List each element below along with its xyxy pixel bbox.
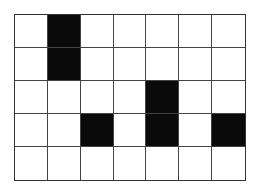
grid-cell-empty — [212, 15, 245, 48]
grid-cell-empty — [179, 15, 212, 48]
grid-cell-filled — [146, 114, 179, 147]
grid-cell-empty — [179, 147, 212, 180]
grid-cell-empty — [146, 15, 179, 48]
grid-cell-filled — [146, 81, 179, 114]
grid-cell-empty — [114, 15, 147, 48]
grid-cell-empty — [15, 15, 48, 48]
grid-cell-filled — [212, 114, 245, 147]
grid-cell-empty — [48, 114, 81, 147]
grid-cell-empty — [114, 81, 147, 114]
grid-cell-empty — [114, 147, 147, 180]
grid-cell-empty — [212, 48, 245, 81]
grid-cell-empty — [15, 147, 48, 180]
grid-cell-empty — [179, 114, 212, 147]
grid-cell-filled — [81, 114, 114, 147]
grid-cell-empty — [15, 114, 48, 147]
grid-cell-empty — [81, 147, 114, 180]
grid-cell-filled — [48, 48, 81, 81]
grid-cell-empty — [212, 147, 245, 180]
grid-cell-empty — [179, 81, 212, 114]
grid-cell-filled — [48, 15, 81, 48]
grid-cell-empty — [81, 15, 114, 48]
grid-cell-empty — [48, 81, 81, 114]
grid-cell-empty — [212, 81, 245, 114]
grid-cell-empty — [48, 147, 81, 180]
grid-cell-empty — [114, 48, 147, 81]
grid-cell-empty — [114, 114, 147, 147]
grid-cell-empty — [15, 48, 48, 81]
grid-cell-empty — [179, 48, 212, 81]
grid-cell-empty — [146, 147, 179, 180]
grid-cell-empty — [15, 81, 48, 114]
grid — [14, 14, 246, 181]
grid-cell-empty — [81, 48, 114, 81]
grid-cell-empty — [146, 48, 179, 81]
grid-cell-empty — [81, 81, 114, 114]
